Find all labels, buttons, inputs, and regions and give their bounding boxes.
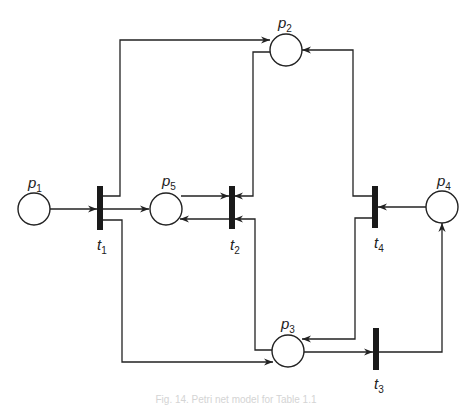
arc-t4-p2: [302, 50, 373, 196]
place-p4: [426, 191, 458, 223]
label-p4: p4: [436, 172, 451, 192]
label-t4: t4: [374, 234, 384, 254]
transition-t4: [372, 186, 378, 228]
figure-caption: Fig. 14. Petri net model for Table 1.1: [0, 394, 472, 405]
arc-t4-p3: [302, 218, 373, 339]
label-p3: p3: [280, 315, 295, 335]
arc-p2-t2: [234, 52, 271, 196]
place-p1: [18, 193, 50, 225]
arc-t3-p4: [378, 223, 442, 352]
transition-t3: [373, 328, 379, 370]
label-t2: t2: [230, 236, 240, 256]
arc-p3-t2: [234, 219, 273, 350]
place-p3: [272, 335, 304, 367]
label-p5: p5: [161, 172, 176, 192]
arcs: [50, 40, 442, 362]
label-p1: p1: [27, 174, 42, 194]
arc-t1-p2: [102, 40, 270, 196]
arc-t1-p3: [102, 220, 273, 362]
label-t3: t3: [374, 375, 384, 395]
place-p2: [270, 34, 302, 66]
label-t1: t1: [97, 236, 107, 256]
transition-t2: [229, 186, 235, 229]
petri-net-diagram: p1 p2 p3 p4 p5 t1 t2 t3 t4: [0, 0, 472, 409]
label-p2: p2: [277, 14, 292, 34]
place-p5: [150, 193, 182, 225]
transition-t1: [97, 186, 103, 230]
